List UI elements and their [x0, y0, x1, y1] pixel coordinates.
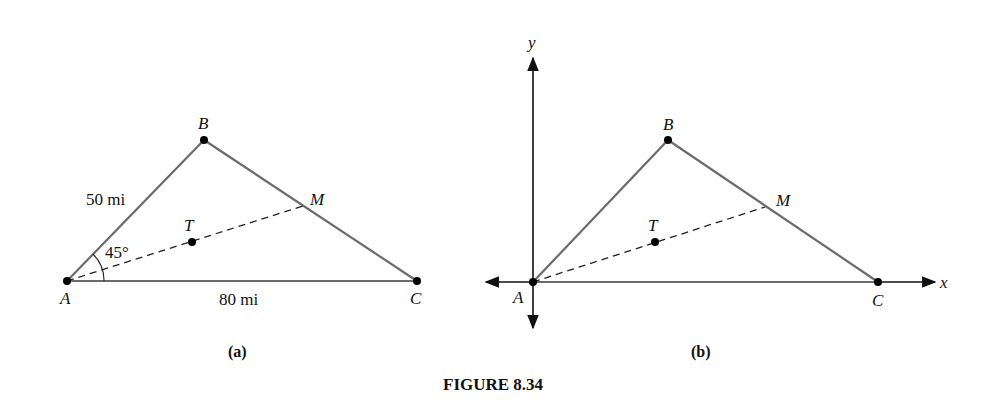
label-m: M: [775, 191, 791, 210]
label-t: T: [648, 216, 659, 235]
side-bc: [668, 140, 878, 282]
figure-title: FIGURE 8.34: [443, 375, 544, 394]
x-axis-label: x: [939, 273, 948, 292]
label-m: M: [309, 190, 325, 209]
point-c: [413, 277, 421, 285]
point-a: [529, 278, 537, 286]
angle-arc: [93, 254, 104, 281]
point-t: [188, 238, 196, 246]
side-bc: [204, 140, 417, 281]
label-a: A: [512, 288, 524, 307]
side-ac-length: 80 mi: [219, 290, 258, 309]
label-c: C: [872, 291, 884, 310]
point-a: [63, 277, 71, 285]
panel-a: A B C M T 50 mi 80 mi 45° (a): [59, 114, 422, 361]
label-t: T: [184, 216, 195, 235]
side-ab-length: 50 mi: [86, 190, 125, 209]
label-c: C: [410, 289, 422, 308]
point-t: [651, 238, 659, 246]
point-b: [664, 136, 672, 144]
caption-b: (b): [691, 343, 711, 361]
label-a: A: [59, 289, 71, 308]
panel-b: A B C M T x y (b): [486, 33, 948, 361]
caption-a: (a): [228, 343, 247, 361]
label-b: B: [198, 114, 209, 133]
angle-a-measure: 45°: [105, 243, 129, 262]
point-c: [874, 278, 882, 286]
point-b: [200, 136, 208, 144]
side-ab: [67, 140, 204, 281]
y-axis-label: y: [526, 33, 536, 52]
figure-canvas: A B C M T 50 mi 80 mi 45° (a) A B C M T …: [0, 0, 1000, 408]
side-ab: [533, 140, 668, 282]
label-b: B: [663, 115, 674, 134]
